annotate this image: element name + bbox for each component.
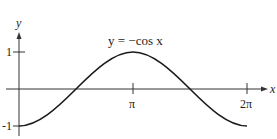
y-axis-arrow-icon <box>17 32 22 39</box>
x-tick-label-pi: π <box>129 97 135 111</box>
chart: y x y = −cos x 1 -1 π 2π <box>0 0 277 139</box>
x-axis-label: x <box>269 82 276 96</box>
y-tick-label-1: 1 <box>6 45 12 59</box>
x-tick-label-2pi: 2π <box>240 97 252 111</box>
y-axis-label: y <box>15 16 22 30</box>
equation-label: y = −cos x <box>108 33 163 48</box>
x-axis-arrow-icon <box>261 87 268 92</box>
y-tick-label-neg1: -1 <box>2 119 12 133</box>
